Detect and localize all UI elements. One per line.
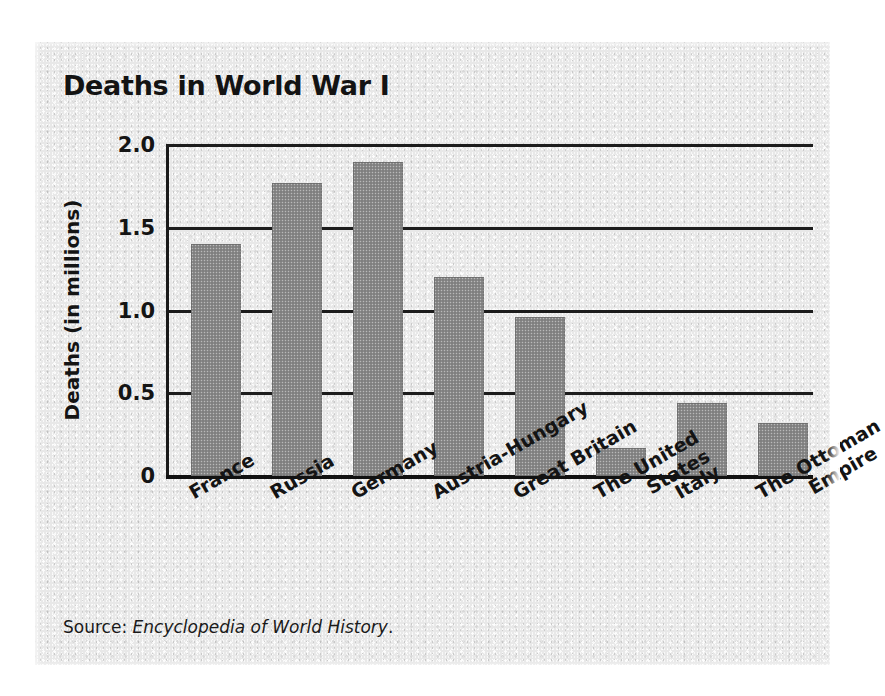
y-axis-tick-label: 0.5 <box>118 381 155 405</box>
gridline <box>166 310 813 313</box>
source-prefix: Source: <box>63 617 133 637</box>
gridline <box>166 227 813 230</box>
bar <box>353 162 403 476</box>
chart-title: Deaths in World War I <box>63 70 390 101</box>
y-axis-tick-label: 2.0 <box>118 133 155 157</box>
gridline <box>166 144 813 147</box>
y-axis-tick-label: 0 <box>140 464 155 488</box>
source-note: Source: Encyclopedia of World History. <box>63 617 393 637</box>
bar <box>191 244 241 476</box>
y-axis-title: Deaths (in millions) <box>60 200 84 421</box>
bar <box>434 277 484 476</box>
source-suffix: . <box>388 617 393 637</box>
y-axis-tick-label: 1.0 <box>118 299 155 323</box>
plot-area: 2.01.51.00.50 <box>166 145 813 476</box>
source-work-title: Encyclopedia of World History <box>133 617 388 637</box>
gridline <box>166 392 813 395</box>
y-axis-tick-label: 1.5 <box>118 216 155 240</box>
bar <box>272 183 322 476</box>
